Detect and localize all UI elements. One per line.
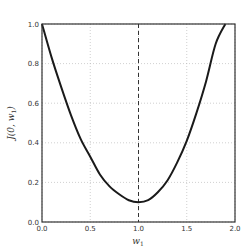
cost-curve [42, 24, 225, 202]
x-tick-label: 0.5 [85, 225, 96, 233]
y-axis-ticks: 0.00.20.40.60.81.0 [28, 21, 40, 227]
y-tick-label: 0.4 [28, 139, 40, 147]
y-tick-label: 1.0 [28, 21, 39, 29]
x-tick-label: 2.0 [229, 225, 240, 233]
y-tick-label: 0.6 [28, 100, 40, 108]
x-tick-label: 1.5 [181, 225, 192, 233]
y-tick-label: 0.0 [28, 219, 39, 227]
y-tick-label: 0.8 [28, 60, 39, 68]
y-axis-label: J(0, w1) [6, 106, 17, 142]
y-tick-label: 0.2 [28, 179, 39, 187]
x-axis-label: w1 [132, 236, 144, 247]
x-tick-label: 1.0 [133, 225, 144, 233]
x-axis-ticks: 0.00.51.01.52.0 [36, 225, 240, 233]
line-chart: 0.00.51.01.52.0 0.00.20.40.60.81.0 w1 J(… [0, 0, 252, 252]
